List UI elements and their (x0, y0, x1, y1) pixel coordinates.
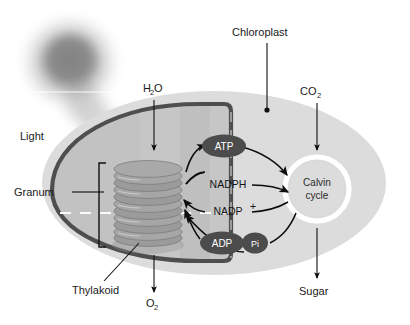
nadp-superscript: + (250, 200, 256, 212)
atp-label: ATP (215, 141, 234, 152)
chloroplast-leader-dot (264, 107, 269, 112)
granum-label: Granum (14, 186, 54, 198)
molecule-adp: ADP (200, 232, 244, 255)
light-label: Light (20, 130, 44, 142)
co2-c: CO (300, 85, 317, 97)
o2-label: O 2 (146, 297, 158, 312)
calvin-cycle-line2: cycle (306, 190, 329, 201)
o2-sub: 2 (154, 303, 158, 312)
pi-label: Pi (251, 239, 259, 249)
thylakoid-disc-top (114, 161, 182, 178)
chloroplast-label: Chloroplast (232, 26, 288, 38)
diagram-canvas: ATP ADP Pi NADPH NADP + Calvin cycle (0, 0, 410, 325)
thylakoid-label: Thylakoid (72, 284, 119, 296)
molecule-pi: Pi (242, 233, 268, 254)
calvin-cycle-line1: Calvin (303, 177, 331, 188)
sun-core (40, 31, 100, 89)
photosynthesis-diagram: ATP ADP Pi NADPH NADP + Calvin cycle (0, 0, 410, 325)
co2-sub: 2 (317, 91, 321, 100)
sugar-label: Sugar (299, 285, 329, 297)
nadph-label: NADPH (210, 178, 247, 190)
molecule-atp: ATP (202, 135, 246, 158)
h2o-o: O (154, 82, 163, 94)
co2-label: CO 2 (300, 85, 321, 100)
adp-label: ADP (212, 238, 233, 249)
thylakoid-discs (114, 161, 182, 247)
nadp-label: NADP (213, 205, 242, 217)
